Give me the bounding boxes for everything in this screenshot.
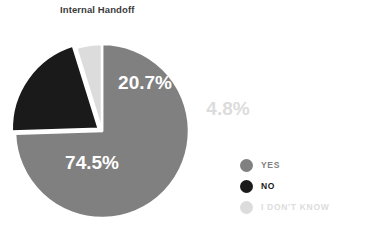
legend-swatch-icon xyxy=(240,159,253,172)
legend-item-label: YES xyxy=(261,160,280,170)
legend-swatch-icon xyxy=(240,201,253,214)
legend-item[interactable]: NO xyxy=(240,179,330,193)
slice-percent-label: 20.7% xyxy=(118,72,172,93)
legend-swatch-icon xyxy=(240,180,253,193)
pie-chart: Internal Handoff 74.5%20.7%4.8% YESNOI D… xyxy=(0,0,366,236)
legend-item-label: I DON'T KNOW xyxy=(261,202,330,212)
pie-slices xyxy=(12,44,189,218)
slice-percent-label: 4.8% xyxy=(206,98,249,119)
slice-percent-label: 74.5% xyxy=(65,152,119,173)
chart-legend: YESNOI DON'T KNOW xyxy=(240,158,330,214)
legend-item-label: NO xyxy=(261,181,275,191)
legend-item[interactable]: I DON'T KNOW xyxy=(240,200,330,214)
legend-item[interactable]: YES xyxy=(240,158,330,172)
